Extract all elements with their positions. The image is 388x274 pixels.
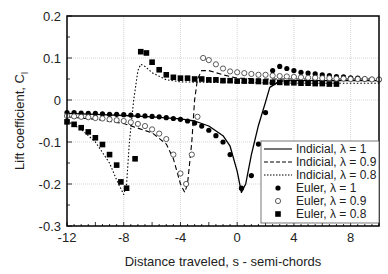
svg-text:Lift coefficient, Cl: Lift coefficient, Cl xyxy=(12,72,30,170)
y-tick-label: -0.2 xyxy=(39,177,61,192)
legend-entry: Euler, λ = 0.9 xyxy=(296,194,367,208)
y-tick-label: 0 xyxy=(54,93,61,108)
x-tick-label: 8 xyxy=(347,230,354,245)
x-tick-label: -4 xyxy=(175,230,187,245)
y-tick-label: -0.3 xyxy=(39,219,61,234)
y-axis-label-text: Lift coefficient, C xyxy=(12,74,27,170)
y-tick-label: -0.1 xyxy=(39,135,61,150)
y-axis-label: Lift coefficient, Cl xyxy=(12,72,30,170)
legend-entry: Euler, λ = 1 xyxy=(296,181,357,195)
x-axis-label: Distance traveled, s - semi-chords xyxy=(125,254,322,269)
legend-entry: Indicial, λ = 1 xyxy=(296,142,367,156)
legend: Indicial, λ = 1Indicial, λ = 0.9Indicial… xyxy=(261,141,379,223)
legend-entry: Indicial, λ = 0.9 xyxy=(296,155,377,169)
legend-entry: Indicial, λ = 0.8 xyxy=(296,168,377,182)
x-tick-label: 4 xyxy=(290,230,297,245)
x-tick-label: -8 xyxy=(118,230,130,245)
lift-coefficient-chart: -12-8-4048 0.20.10-0.1-0.2-0.3 Distance … xyxy=(0,0,388,274)
y-axis-label-subscript: l xyxy=(20,72,30,74)
x-tick-label: 0 xyxy=(234,230,241,245)
y-tick-label: 0.1 xyxy=(43,51,61,66)
y-tick-label: 0.2 xyxy=(43,9,61,24)
legend-entry: Euler, λ = 0.8 xyxy=(296,207,367,221)
